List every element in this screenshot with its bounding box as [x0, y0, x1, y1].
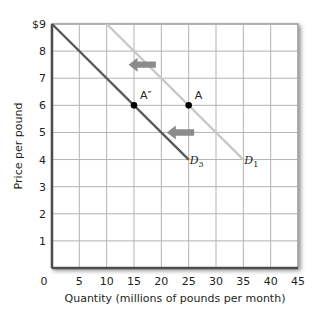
y-tick-label: 1	[39, 235, 46, 248]
x-tick-label: 40	[264, 275, 278, 288]
x-tick-label: 20	[154, 275, 168, 288]
data-point	[185, 102, 192, 109]
point-label: A	[195, 89, 203, 102]
y-tick-label: 7	[39, 72, 46, 85]
x-tick-label: 10	[100, 275, 114, 288]
y-tick-label: 8	[39, 45, 46, 58]
x-tick-label: 35	[236, 275, 250, 288]
x-tick-label: 45	[291, 275, 305, 288]
y-tick-label: 4	[39, 154, 46, 167]
point-label: A″	[140, 89, 152, 102]
y-tick-label: $9	[32, 18, 46, 31]
y-tick-label: 6	[39, 99, 46, 112]
x-tick-label: 5	[76, 275, 83, 288]
x-tick-label: 25	[182, 275, 196, 288]
x-tick-label: 30	[209, 275, 223, 288]
x-tick-label: 15	[127, 275, 141, 288]
x-tick-label: 0	[41, 275, 48, 288]
demand-shift-chart: D1D3 AA″ 05101520253035404512345678$9 Qu…	[0, 0, 318, 320]
data-point	[131, 102, 138, 109]
y-tick-label: 5	[39, 126, 46, 139]
y-tick-label: 2	[39, 208, 46, 221]
x-axis-label: Quantity (millions of pounds per month)	[65, 292, 286, 305]
y-axis-label: Price per pound	[12, 103, 25, 190]
y-tick-label: 3	[39, 181, 46, 194]
